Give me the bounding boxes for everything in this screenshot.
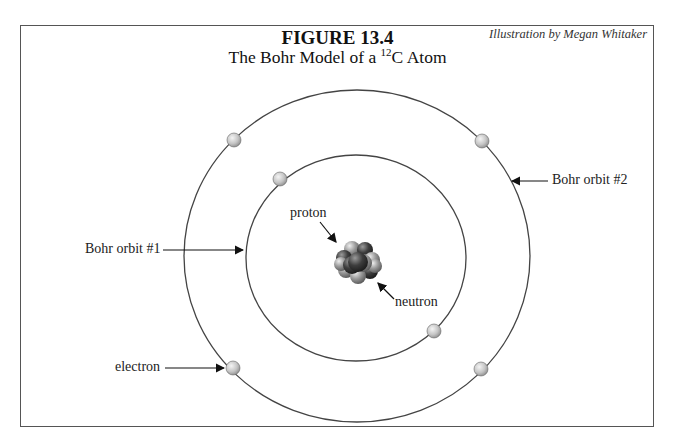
nucleus <box>334 241 382 284</box>
electron-inner-2 <box>427 324 441 338</box>
label-proton: proton <box>290 205 327 221</box>
label-bohr-orbit-2: Bohr orbit #2 <box>552 172 627 188</box>
arrow-proton <box>320 222 336 242</box>
label-neutron: neutron <box>395 294 438 310</box>
label-bohr-orbit-1: Bohr orbit #1 <box>85 241 160 257</box>
electron-inner-1 <box>273 172 287 186</box>
arrow-neutron <box>378 283 394 299</box>
bohr-model-diagram <box>0 0 675 446</box>
electron-outer-4 <box>474 362 488 376</box>
electron-outer-2 <box>475 134 489 148</box>
electron-outer-1 <box>227 133 241 147</box>
electron-outer-3 <box>226 361 240 375</box>
label-electron: electron <box>115 359 160 375</box>
